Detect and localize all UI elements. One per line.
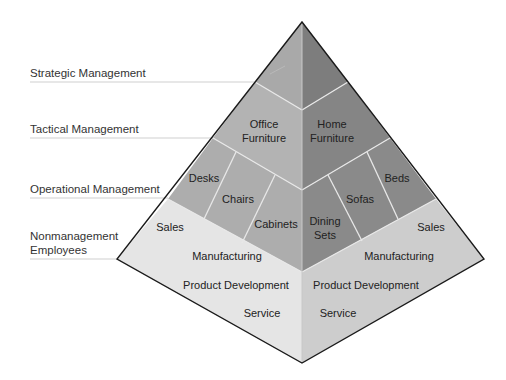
segment-desks: Desks xyxy=(189,172,220,184)
segment-office-furniture-line1: Office xyxy=(250,118,279,130)
segment-right-product-development: Product Development xyxy=(313,279,419,291)
segment-left-manufacturing: Manufacturing xyxy=(192,250,262,262)
segment-right-sales: Sales xyxy=(417,221,445,233)
segment-left-product-development: Product Development xyxy=(183,279,289,291)
segment-left-sales: Sales xyxy=(156,221,184,233)
management-pyramid-diagram: Strategic Management Tactical Management… xyxy=(0,0,506,380)
segment-cabinets: Cabinets xyxy=(254,218,298,230)
segment-dining-sets-line1: Dining xyxy=(309,215,340,227)
segment-home-furniture-line2: Furniture xyxy=(310,132,354,144)
segment-left-service: Service xyxy=(244,307,281,319)
segment-home-furniture-line1: Home xyxy=(317,118,346,130)
segment-sofas: Sofas xyxy=(346,193,375,205)
segment-right-service: Service xyxy=(320,307,357,319)
segment-chairs: Chairs xyxy=(222,193,254,205)
level-label-strategic: Strategic Management xyxy=(30,67,147,79)
level-label-operational: Operational Management xyxy=(30,183,161,195)
segment-dining-sets-line2: Sets xyxy=(314,229,337,241)
level-label-tactical: Tactical Management xyxy=(30,123,139,135)
level-label-nonmanagement-line1: Nonmanagement xyxy=(30,230,119,242)
segment-office-furniture-line2: Furniture xyxy=(242,132,286,144)
segment-beds: Beds xyxy=(384,172,410,184)
level-label-nonmanagement-line2: Employees xyxy=(30,244,87,256)
segment-right-manufacturing: Manufacturing xyxy=(364,250,434,262)
